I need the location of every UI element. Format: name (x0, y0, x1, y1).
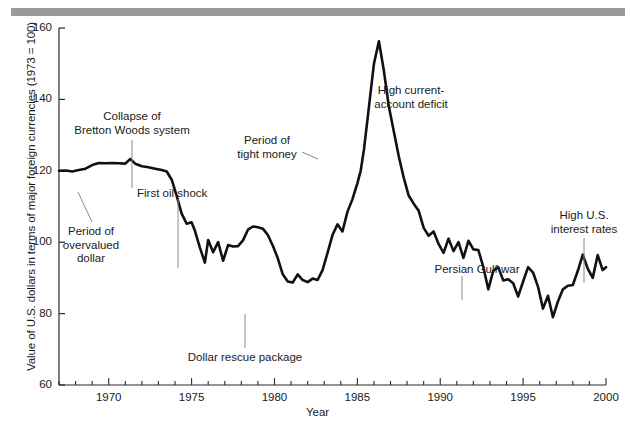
y-tick-label-140: 140 (26, 92, 52, 104)
y-tick-label-160: 160 (26, 21, 52, 33)
annotation-high-us-interest-rates: High U.S. interest rates (484, 209, 635, 236)
annotation-period-of-tight-money: Period of tight money (167, 134, 367, 161)
x-tick-label-1970: 1970 (87, 391, 131, 403)
annotation-first-oil-shock: First oil shock (137, 187, 207, 201)
x-tick-label-1990: 1990 (418, 391, 462, 403)
chart-figure: Value of U.S. dollars in terms of major … (0, 0, 635, 435)
annotation-high-current-account-deficit: High current- account deficit (311, 84, 511, 111)
x-tick-label-1975: 1975 (170, 391, 214, 403)
annotation-collapse-bretton-woods: Collapse of Bretton Woods system (32, 110, 232, 137)
x-tick-label-1985: 1985 (335, 391, 379, 403)
annotation-persian-gulf-war: Persian Gulf war (377, 263, 577, 277)
annotation-period-of-overvalued-dollar: Period of overvalued dollar (0, 225, 191, 266)
x-tick-label-2000: 2000 (584, 391, 628, 403)
y-tick-label-120: 120 (26, 164, 52, 176)
x-tick-label-1995: 1995 (501, 391, 545, 403)
y-tick-label-80: 80 (26, 307, 52, 319)
x-tick-label-1980: 1980 (252, 391, 296, 403)
y-tick-label-60: 60 (26, 378, 52, 390)
annotation-leader-period-of-overvalued-dollar (78, 192, 92, 222)
annotation-dollar-rescue-package: Dollar rescue package (145, 351, 345, 365)
